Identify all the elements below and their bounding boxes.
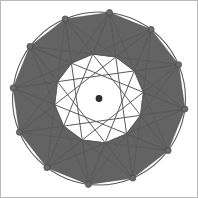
vertex-marker xyxy=(165,148,171,154)
vertex-marker xyxy=(182,106,188,112)
star-polygon-figure xyxy=(0,0,198,198)
vertex-marker xyxy=(62,16,68,22)
vertex-marker xyxy=(130,175,136,181)
vertex-marker xyxy=(27,43,33,49)
vertex-marker xyxy=(10,85,16,91)
center-dot-layer xyxy=(96,95,103,102)
center-dot xyxy=(96,95,103,102)
vertex-marker xyxy=(16,129,22,135)
vertex-marker xyxy=(176,62,182,68)
vertex-marker xyxy=(148,26,154,32)
vertex-marker xyxy=(107,10,113,16)
vertex-marker xyxy=(85,181,91,187)
vertex-marker xyxy=(44,165,50,171)
figure-canvas xyxy=(0,0,198,198)
